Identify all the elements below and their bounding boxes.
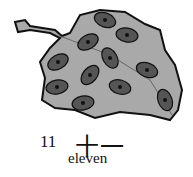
leaf-illustration — [0, 0, 193, 130]
leaf — [15, 10, 182, 120]
number-word: eleven — [68, 150, 107, 167]
numeral: 11 — [40, 132, 56, 152]
